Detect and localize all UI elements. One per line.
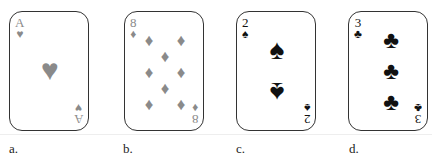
club-icon: ♣ [354,28,362,40]
heart-icon: ♥ [75,102,82,114]
card-label-c: c. [236,141,245,157]
card-corner-top: 3 ♣ [354,16,362,40]
diamond-icon: ♦ [177,96,186,113]
spade-icon: ♠ [270,36,285,64]
card-label-a: a. [9,141,18,157]
heart-icon: ♥ [41,55,59,85]
card-corner-bottom: 8 ♦ [192,102,199,126]
spade-icon: ♠ [304,102,310,114]
card-eight-of-diamonds[interactable]: 8 ♦ ♦ ♦ ♦ ♦ ♦ ♦ ♦ ♦ 8 ♦ [124,11,204,131]
card-corner-top: 8 ♦ [130,16,137,40]
diamond-icon: ♦ [145,64,154,81]
spade-icon: ♠ [270,78,285,106]
club-icon: ♣ [383,59,399,83]
diamond-icon: ♦ [145,96,154,113]
card-corner-bottom: 3 ♣ [414,102,422,126]
diamond-icon: ♦ [177,64,186,81]
heart-icon: ♥ [16,28,23,40]
spade-icon: ♠ [242,28,248,40]
diamond-icon: ♦ [130,28,136,40]
card-label-b: b. [123,141,133,157]
club-icon: ♣ [383,90,399,114]
card-corner-bottom: 2 ♠ [304,102,311,126]
card-two-of-spades[interactable]: 2 ♠ ♠ ♠ 2 ♠ [236,11,316,131]
card-label-d: d. [349,141,359,157]
diamond-icon: ♦ [161,48,170,65]
club-icon: ♣ [383,28,399,52]
card-ace-of-hearts[interactable]: A ♥ ♥ A ♥ [9,11,89,131]
card-corner-top: 2 ♠ [242,16,249,40]
card-corner-top: A ♥ [15,16,24,40]
divider [0,134,432,135]
diamond-icon: ♦ [161,80,170,97]
card-corner-bottom: A ♥ [74,102,83,126]
diamond-icon: ♦ [192,102,198,114]
club-icon: ♣ [414,102,422,114]
diamond-icon: ♦ [177,32,186,49]
card-three-of-clubs[interactable]: 3 ♣ ♣ ♣ ♣ 3 ♣ [348,11,428,131]
diamond-icon: ♦ [145,32,154,49]
